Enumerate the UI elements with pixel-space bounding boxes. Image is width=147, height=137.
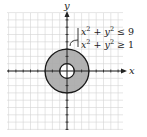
x-axis-label: x (129, 65, 135, 76)
region-diagram: x y x2 + y2 ≤ 9 x2 + y2 ≥ 1 (0, 0, 147, 137)
y-axis-label: y (63, 0, 70, 11)
x-axis-arrow-icon (121, 69, 127, 74)
y-axis-arrow-icon (65, 11, 70, 17)
